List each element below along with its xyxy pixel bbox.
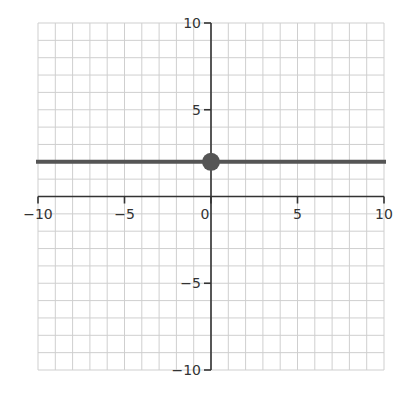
x-tick-label: 0 <box>201 206 210 222</box>
y-tick-label: −10 <box>171 362 201 378</box>
x-tick-label: −5 <box>114 206 135 222</box>
y-tick-label: 5 <box>192 102 201 118</box>
data-series <box>36 153 386 171</box>
x-tick-label: 5 <box>293 206 302 222</box>
y-tick-label: 10 <box>183 15 201 31</box>
x-tick-label: 10 <box>375 206 393 222</box>
x-tick-label: −10 <box>23 206 53 222</box>
y-tick-label: −5 <box>180 275 201 291</box>
coordinate-plane-chart: −10−50510105−5−10 <box>0 0 411 400</box>
data-point <box>202 153 220 171</box>
